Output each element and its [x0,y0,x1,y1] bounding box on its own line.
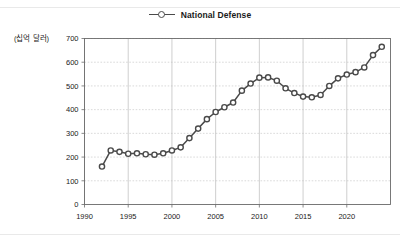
data-point [309,95,314,100]
data-point [266,75,271,80]
x-tick-label: 2010 [251,212,268,221]
data-point [292,90,297,95]
x-tick-label: 2015 [295,212,312,221]
gridlines [85,39,391,205]
x-tick-label: 1990 [76,212,93,221]
data-point [379,44,384,49]
x-tick-label: 1995 [120,212,137,221]
chart-figure: National Defense (십억 달러) 010020030040050… [0,0,400,243]
data-point [134,151,139,156]
data-point [274,78,279,83]
data-point [362,65,367,70]
data-point [213,109,218,114]
plot-frame [82,39,391,208]
data-point [204,117,209,122]
y-tick-label: 200 [66,153,79,162]
y-tick-label: 600 [66,58,79,67]
data-point [353,70,358,75]
x-tick-label: 2000 [164,212,181,221]
x-tick-label: 2020 [338,212,355,221]
data-point [196,126,201,131]
data-point [257,75,262,80]
x-tick-label: 2005 [207,212,224,221]
y-tick-label: 500 [66,82,79,91]
x-axis-ticks: 1990199520002005201020152020 [76,212,355,221]
data-point [231,100,236,105]
data-point [283,86,288,91]
data-point [327,83,332,88]
y-tick-label: 100 [66,177,79,186]
data-point [300,94,305,99]
data-point [108,148,113,153]
y-tick-label: 300 [66,129,79,138]
data-point [169,148,174,153]
data-point [187,136,192,141]
data-point [117,149,122,154]
plot-area: 0100200300400500600700 19901995200020052… [0,0,400,243]
y-tick-label: 400 [66,105,79,114]
y-tick-label: 700 [66,34,79,43]
data-point [126,151,131,156]
data-point [318,92,323,97]
data-point [99,164,104,169]
data-point [222,105,227,110]
data-point [248,81,253,86]
data-point [178,145,183,150]
data-series-national-defense [99,44,384,169]
data-point [344,72,349,77]
data-point [161,151,166,156]
y-axis-ticks: 0100200300400500600700 [66,34,79,209]
y-tick-label: 0 [74,200,78,209]
data-point [335,76,340,81]
data-point [143,152,148,157]
data-point [152,152,157,157]
data-point [239,88,244,93]
data-point [370,53,375,58]
